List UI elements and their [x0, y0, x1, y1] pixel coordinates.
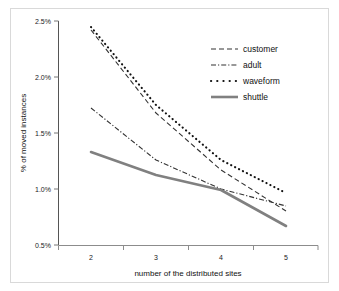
legend-label-shuttle: shuttle [243, 92, 268, 102]
series-line-adult [91, 108, 286, 206]
line-chart: 2.5% 2.0% 1.5% 1.0% 0.5% 2 3 4 5 number … [0, 0, 339, 291]
x-tick-label-3: 3 [154, 254, 158, 261]
y-axis-title: % of moved instances [19, 94, 28, 172]
series-line-shuttle [91, 152, 286, 226]
legend-label-waveform: waveform [242, 76, 280, 86]
legend-label-customer: customer [243, 44, 278, 54]
y-tick-label-0.5: 0.5% [35, 242, 51, 249]
legend-label-adult: adult [243, 60, 262, 70]
x-axis-title: number of the distributed sites [134, 269, 241, 278]
chart-figure: 2.5% 2.0% 1.5% 1.0% 0.5% 2 3 4 5 number … [0, 0, 339, 291]
y-tick-label-1.5: 1.5% [35, 130, 51, 137]
x-tick-label-5: 5 [284, 254, 288, 261]
y-tick-label-2.5: 2.5% [35, 18, 51, 25]
x-axis-ticks [59, 246, 319, 251]
series-line-customer [91, 30, 286, 211]
y-tick-label-2.0: 2.0% [35, 74, 51, 81]
x-tick-label-2: 2 [89, 254, 93, 261]
x-tick-label-4: 4 [219, 254, 223, 261]
y-tick-label-1.0: 1.0% [35, 186, 51, 193]
chart-legend: customer adult waveform shuttle [211, 44, 280, 102]
y-axis-ticks [54, 21, 59, 245]
